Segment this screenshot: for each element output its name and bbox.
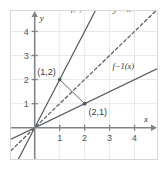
point-label-2: (2,1)	[89, 107, 108, 117]
y-axis-name: y	[39, 13, 44, 23]
y-tick-label: 1	[24, 99, 29, 109]
y-axis-arrow	[32, 11, 38, 17]
x-tick-label: 2	[82, 133, 87, 143]
curve-label-f-inverse: f−1(x)	[112, 61, 134, 71]
curve-label-identity: y = x	[112, 11, 131, 14]
plot-frame: 12341234xyf(x)y = xf−1(x)(1,2)(2,1)	[10, 10, 158, 160]
y-tick-label: 3	[24, 51, 29, 61]
x-axis-arrow	[151, 125, 157, 131]
point-label-1: (1,2)	[37, 67, 56, 77]
curve-label-f: f(x)	[71, 11, 83, 13]
x-axis-name: x	[143, 114, 148, 124]
x-tick-label: 1	[57, 133, 62, 143]
inverse-function-figure: 12341234xyf(x)y = xf−1(x)(1,2)(2,1)	[0, 0, 168, 174]
x-tick-label: 4	[132, 133, 137, 143]
point-marker	[83, 102, 87, 106]
y-tick-label: 4	[24, 27, 29, 37]
plot-canvas: 12341234xyf(x)y = xf−1(x)(1,2)(2,1)	[11, 11, 157, 159]
point-marker	[58, 78, 62, 82]
x-tick-label: 3	[107, 133, 112, 143]
y-tick-label: 2	[24, 75, 29, 85]
